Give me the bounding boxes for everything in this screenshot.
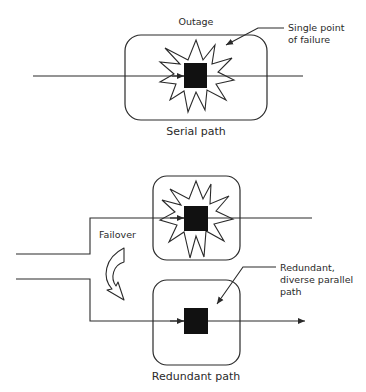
primary-path-line — [16, 218, 312, 254]
redundant-component-block — [184, 308, 208, 334]
failed-component-block — [184, 63, 207, 88]
failed-primary-group — [16, 176, 312, 260]
redundant-path-label: Redundant path — [152, 370, 240, 383]
failover-label: Failover — [99, 229, 136, 241]
serial-path-group — [33, 28, 303, 120]
redundant-callout-leader — [217, 267, 276, 304]
diagram-canvas: Outage Single point of failure Serial pa… — [0, 0, 366, 392]
outage-label: Outage — [179, 16, 214, 28]
redundant-path-line — [16, 279, 305, 321]
failover-curved-arrow-icon — [106, 248, 124, 300]
diagram-graphics — [0, 0, 366, 392]
single-point-callout-leader — [226, 28, 284, 45]
failed-component-block — [184, 206, 208, 231]
single-point-of-failure-label: Single point of failure — [288, 22, 344, 46]
serial-path-label: Serial path — [166, 125, 226, 138]
redundant-parallel-path-label: Redundant, diverse parallel path — [280, 262, 353, 298]
redundant-path-group — [16, 267, 305, 365]
